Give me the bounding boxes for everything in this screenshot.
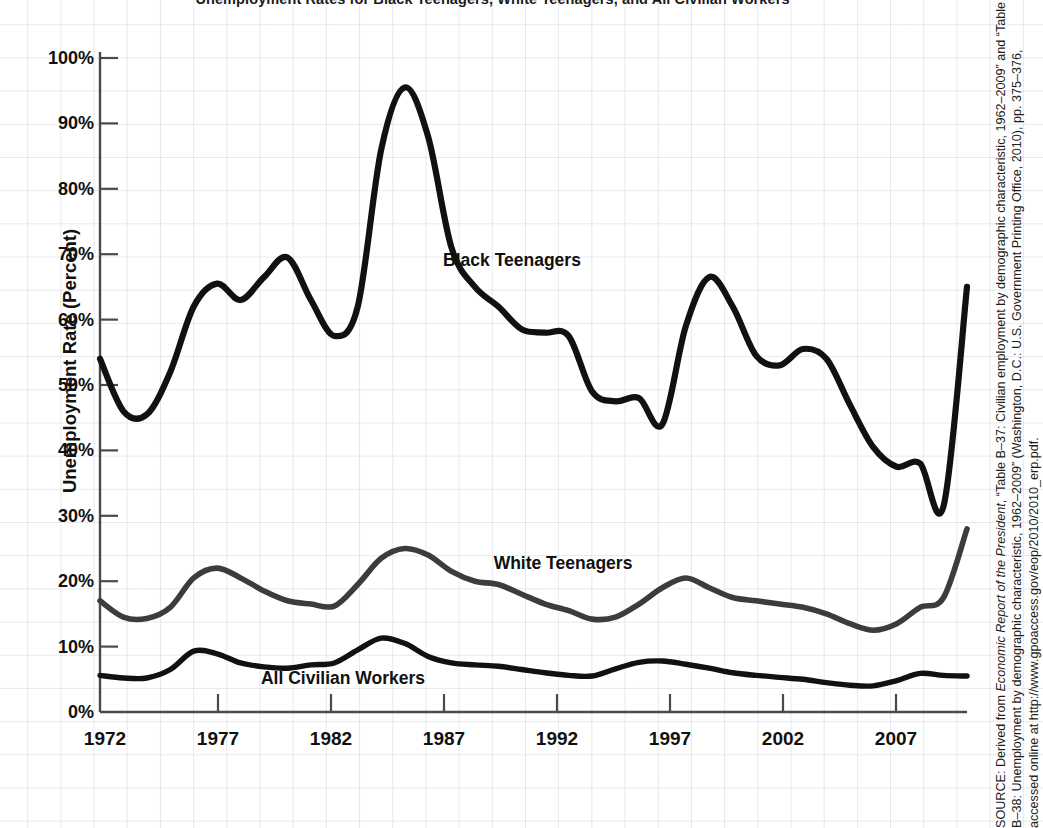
figure-bottom-gutter xyxy=(0,760,985,828)
chart-figure: Unemployment Rates for Black Teenagers, … xyxy=(0,0,1043,828)
plot-area: Unemployment Rate (Percent) 0% 10% 20% 3… xyxy=(0,0,985,760)
y-axis-ticks xyxy=(100,58,118,647)
series-line-all-civilian-workers xyxy=(100,638,967,686)
series-line-black-teenagers xyxy=(100,87,967,513)
source-prefix: SOURCE: Derived from xyxy=(994,692,1008,828)
series-line-white-teenagers xyxy=(100,529,967,630)
source-italic-title: Economic Report of the President xyxy=(994,503,1008,691)
source-note-text: SOURCE: Derived from Economic Report of … xyxy=(993,0,1043,828)
x-axis-ticks xyxy=(218,694,896,712)
chart-svg xyxy=(0,0,985,760)
